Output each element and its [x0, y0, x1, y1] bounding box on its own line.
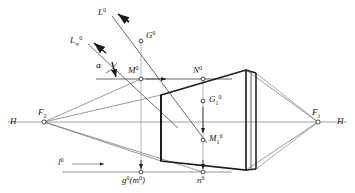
- label-point-G1: G10: [209, 95, 222, 104]
- label-ground-g0-m0: g0(m0): [122, 176, 145, 185]
- label-ground-l0: l0: [58, 158, 64, 167]
- ray-F1-to-right-bottom: [256, 122, 318, 169]
- light-ray-L0-arrowhead: [118, 14, 129, 22]
- label-horizon-left: H: [10, 117, 17, 126]
- label-horizon-right: H: [337, 117, 344, 126]
- ray-F1-to-box-back-bottom: [246, 122, 318, 170]
- marker-M0: [139, 77, 143, 81]
- label-point-G0: G0: [146, 31, 156, 40]
- arrow-annotations: [72, 79, 203, 169]
- label-vanishing-point-F2: F2: [38, 108, 47, 117]
- label-ray-Linf0: L∞0: [70, 36, 82, 45]
- ray-F2-to-M0: [44, 79, 141, 122]
- ray-F1-to-box-back-top: [246, 70, 318, 122]
- perspective-projection-diagram: L0 L∞0 α G0 M0 N0 G10 M10 F2 F1 H H l0 g…: [0, 0, 355, 193]
- marker-N0: [201, 77, 205, 81]
- marker-F1: [316, 120, 320, 124]
- diagram-canvas: [0, 0, 355, 193]
- marker-F2: [42, 120, 46, 124]
- label-point-M0: M0: [128, 66, 139, 75]
- ray-F1-to-right-top: [256, 73, 318, 122]
- box-front-face: [161, 70, 246, 170]
- vanishing-rays-from-F1: [246, 70, 318, 170]
- marker-G0: [139, 39, 143, 43]
- marker-M1: [201, 138, 205, 142]
- label-angle-alpha: α: [96, 62, 101, 70]
- projector-verticals: [141, 41, 203, 172]
- marker-G1: [201, 99, 205, 103]
- label-point-N0: N0: [193, 66, 202, 75]
- label-ray-L0: L0: [98, 8, 106, 17]
- marker-g0-m0: [139, 170, 143, 174]
- marker-n0: [201, 170, 205, 174]
- label-point-M1: M10: [209, 134, 223, 143]
- alpha-arc: [106, 63, 117, 73]
- label-vanishing-point-F1: F1: [312, 108, 321, 117]
- label-ground-n0: n0: [197, 176, 205, 185]
- ray-F2-to-n0: [44, 122, 203, 172]
- vanishing-rays-from-F2: [44, 79, 203, 172]
- solid-prism-box: [161, 70, 256, 170]
- ray-F2-to-box-top: [44, 95, 161, 122]
- point-markers: [42, 39, 320, 174]
